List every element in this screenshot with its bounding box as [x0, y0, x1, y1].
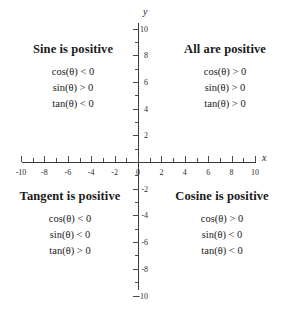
quadrant-4-annotation: Cosine is positive cos(θ) > 0 sin(θ) < 0… [152, 189, 292, 259]
quadrant-4-tan: tan(θ) < 0 [152, 243, 292, 259]
y-axis-label: y [143, 6, 147, 17]
quadrant-1-sin: sin(θ) > 0 [155, 80, 295, 96]
x-tick-label: -8 [41, 168, 48, 177]
y-tick-label: 2 [130, 131, 148, 140]
x-tick-label: 10 [251, 168, 259, 177]
quadrant-2-tan: tan(θ) < 0 [3, 96, 143, 112]
x-tick-label: -10 [16, 168, 27, 177]
x-tick-label: 8 [230, 168, 234, 177]
x-tick-minor [80, 158, 81, 162]
trig-quadrant-chart: -10-8-6-4-20246810108642-2-4-6-8-10 x y … [0, 0, 298, 313]
x-tick-minor [103, 158, 104, 162]
quadrant-2-annotation: Sine is positive cos(θ) < 0 sin(θ) > 0 t… [3, 42, 143, 112]
x-tick-major [44, 156, 45, 162]
y-tick-minor [135, 122, 139, 123]
quadrant-1-tan: tan(θ) > 0 [155, 96, 295, 112]
x-axis-line [22, 162, 256, 163]
x-tick-major [185, 156, 186, 162]
y-tick-minor [135, 175, 139, 176]
x-tick-major [91, 156, 92, 162]
x-tick-major [115, 156, 116, 162]
quadrant-1-cos: cos(θ) > 0 [155, 64, 295, 80]
x-tick-label: 2 [159, 168, 163, 177]
x-tick-label: 4 [183, 168, 187, 177]
x-axis-label: x [262, 152, 266, 163]
x-tick-label: -6 [64, 168, 71, 177]
x-tick-major [208, 156, 209, 162]
x-tick-minor [150, 158, 151, 162]
y-tick-minor [135, 282, 139, 283]
quadrant-3-annotation: Tangent is positive cos(θ) < 0 sin(θ) < … [0, 189, 140, 259]
x-tick-major [21, 156, 22, 162]
x-tick-label: 6 [206, 168, 210, 177]
quadrant-2-sin: sin(θ) > 0 [3, 80, 143, 96]
x-tick-minor [173, 158, 174, 162]
quadrant-4-title: Cosine is positive [152, 189, 292, 204]
y-tick-label: 10 [130, 24, 148, 33]
quadrant-3-title: Tangent is positive [0, 189, 140, 204]
quadrant-2-title: Sine is positive [3, 42, 143, 57]
x-tick-minor [220, 158, 221, 162]
x-tick-major [68, 156, 69, 162]
quadrant-3-sin: sin(θ) < 0 [0, 227, 140, 243]
x-tick-major [255, 156, 256, 162]
x-tick-label: -4 [88, 168, 95, 177]
quadrant-2-cos: cos(θ) < 0 [3, 64, 143, 80]
x-tick-minor [197, 158, 198, 162]
y-tick-major [133, 162, 139, 163]
y-tick-label: -10 [130, 291, 148, 300]
x-tick-label: -2 [111, 168, 118, 177]
quadrant-1-annotation: All are positive cos(θ) > 0 sin(θ) > 0 t… [155, 42, 295, 112]
x-tick-minor [56, 158, 57, 162]
x-tick-minor [243, 158, 244, 162]
x-tick-major [161, 156, 162, 162]
y-tick-label: -8 [130, 264, 148, 273]
x-tick-minor [126, 158, 127, 162]
quadrant-4-cos: cos(θ) > 0 [152, 211, 292, 227]
x-tick-minor [33, 158, 34, 162]
quadrant-3-tan: tan(θ) > 0 [0, 243, 140, 259]
quadrant-4-sin: sin(θ) < 0 [152, 227, 292, 243]
x-tick-major [232, 156, 233, 162]
y-tick-minor [135, 149, 139, 150]
quadrant-1-title: All are positive [155, 42, 295, 57]
quadrant-3-cos: cos(θ) < 0 [0, 211, 140, 227]
